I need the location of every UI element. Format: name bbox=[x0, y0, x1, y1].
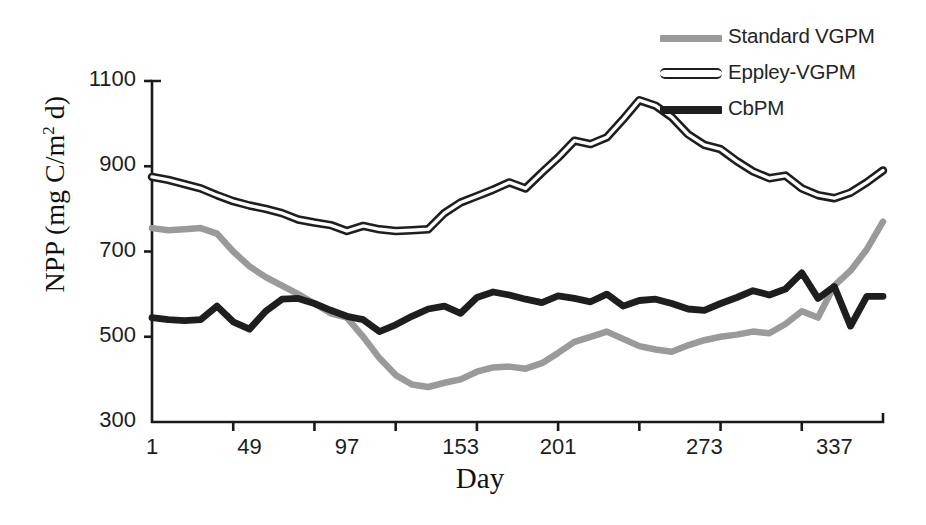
y-tick-label: 1100 bbox=[56, 66, 136, 92]
x-tick-label: 1 bbox=[117, 434, 187, 460]
legend-label-cbpm: CbPM bbox=[728, 96, 784, 120]
npp-line-chart: NPP (mg C/m2 d) Day Standard VGPM Eppley… bbox=[0, 0, 926, 525]
x-tick-label: 153 bbox=[426, 434, 496, 460]
y-tick-label: 700 bbox=[56, 237, 136, 263]
legend-label-standard-vgpm: Standard VGPM bbox=[728, 24, 875, 48]
x-axis-ticks bbox=[233, 422, 802, 431]
y-tick-label: 300 bbox=[56, 407, 136, 433]
y-tick-label: 500 bbox=[56, 322, 136, 348]
x-tick-label: 337 bbox=[799, 434, 869, 460]
x-tick-label: 273 bbox=[669, 434, 739, 460]
series-standard-vgpm bbox=[152, 222, 883, 387]
legend-swatch-eppley-vgpm bbox=[660, 68, 722, 79]
legend-item-eppley-vgpm: Eppley-VGPM bbox=[660, 54, 926, 90]
legend-label-eppley-vgpm: Eppley-VGPM bbox=[728, 60, 856, 84]
y-axis-label-superscript: 2 bbox=[39, 126, 58, 135]
y-axis-label-suffix: d) bbox=[39, 96, 70, 126]
x-axis-label: Day bbox=[380, 462, 580, 495]
legend-item-standard-vgpm: Standard VGPM bbox=[660, 18, 926, 54]
legend-item-cbpm: CbPM bbox=[660, 90, 926, 126]
x-tick-label: 49 bbox=[214, 434, 284, 460]
chart-legend: Standard VGPM Eppley-VGPM CbPM bbox=[660, 18, 926, 126]
y-tick-label: 900 bbox=[56, 151, 136, 177]
x-tick-label: 201 bbox=[523, 434, 593, 460]
legend-swatch-cbpm bbox=[660, 106, 722, 114]
series-cbpm bbox=[152, 273, 883, 332]
legend-swatch-standard-vgpm bbox=[660, 35, 722, 42]
x-tick-label: 97 bbox=[312, 434, 382, 460]
